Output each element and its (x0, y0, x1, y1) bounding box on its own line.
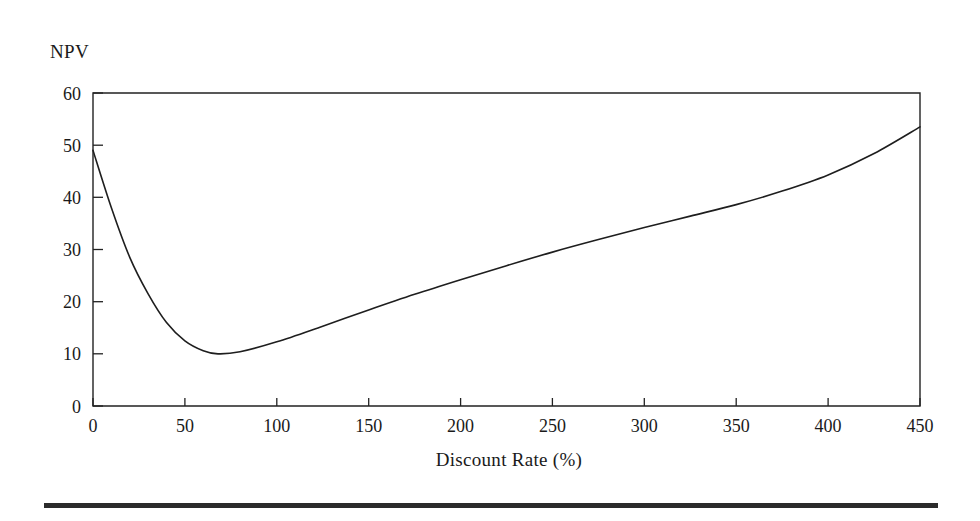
x-tick-label: 400 (815, 416, 842, 436)
x-tick-label: 100 (263, 416, 290, 436)
x-axis-label: Discount Rate (%) (436, 449, 583, 470)
y-tick-label: 20 (63, 292, 81, 312)
x-tick-label: 150 (355, 416, 382, 436)
y-tick-label: 40 (63, 188, 81, 208)
plot-area: 0 10 20 30 40 50 60 0 50 100 150 200 250… (0, 0, 980, 521)
npv-data-curve (93, 127, 920, 354)
y-tick-marks (93, 93, 103, 406)
x-tick-marks (93, 398, 920, 406)
x-tick-label: 0 (89, 416, 98, 436)
x-tick-label: 200 (447, 416, 474, 436)
x-axis-label-wrap: Discount Rate (%) (0, 448, 980, 472)
y-tick-label: 0 (72, 397, 81, 417)
x-tick-label: 300 (631, 416, 658, 436)
y-tick-labels: 0 10 20 30 40 50 60 (63, 84, 81, 417)
y-tick-label: 60 (63, 84, 81, 104)
y-tick-label: 50 (63, 136, 81, 156)
y-tick-label: 30 (63, 240, 81, 260)
y-tick-label: 10 (63, 344, 81, 364)
x-tick-label: 450 (907, 416, 934, 436)
plot-frame (93, 93, 920, 406)
bottom-horizontal-rule (44, 503, 938, 508)
x-tick-label: 50 (176, 416, 194, 436)
x-tick-labels: 0 50 100 150 200 250 300 350 400 450 (89, 416, 934, 436)
x-tick-label: 350 (723, 416, 750, 436)
x-tick-label: 250 (539, 416, 566, 436)
chart-figure: NPV 0 10 (0, 0, 980, 521)
